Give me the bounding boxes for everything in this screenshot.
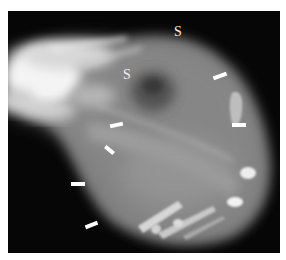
- label-s-middle: S: [123, 68, 131, 82]
- label-s-upper: S: [174, 25, 182, 39]
- arrow-marker-2: [232, 123, 246, 127]
- radiograph-image: S S: [8, 11, 280, 253]
- arrow-marker-5: [71, 182, 85, 186]
- radiograph-body: [8, 11, 280, 253]
